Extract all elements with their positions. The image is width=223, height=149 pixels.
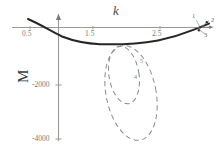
x-axis-label: k: [113, 4, 119, 17]
confidence-ellipse-inner: [105, 44, 144, 106]
annotation-label-2: 2: [211, 17, 214, 24]
chart-canvas: [0, 0, 223, 149]
y-tick-label-4000: -4000: [32, 135, 50, 143]
annotation-dot-2: [206, 21, 209, 24]
ellipse-label-5: 5: [140, 58, 143, 64]
annotation-dot-3: [198, 29, 201, 32]
chart-figure: k M 0.5 1.5 2.5 -2000 -4000 1 2 3 4 5: [0, 0, 223, 149]
confidence-ellipse-outer: [97, 41, 164, 145]
y-tick-label-2000: -2000: [32, 81, 50, 89]
x-tick-label-2-5: 2.5: [152, 30, 161, 38]
ellipse-label-4: 4: [134, 74, 137, 80]
end-arrow-head-icon: [209, 25, 214, 29]
y-axis-label: M: [16, 70, 31, 83]
curve-m-of-k: [28, 19, 209, 44]
leader-line-1: [197, 21, 201, 28]
x-tick-label-1-5: 1.5: [85, 30, 94, 38]
annotation-dot-1: [199, 26, 202, 29]
annotation-label-1: 1: [192, 13, 195, 20]
x-tick-label-0-5: 0.5: [22, 30, 31, 38]
annotation-label-3: 3: [204, 32, 207, 39]
y-axis-arrow-icon: [56, 14, 61, 21]
